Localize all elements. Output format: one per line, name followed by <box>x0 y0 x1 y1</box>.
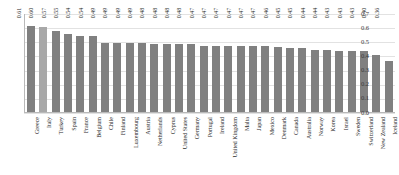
category-label-slot: Malta <box>235 115 247 173</box>
bar-slot: 0.54 <box>87 14 99 112</box>
bar-slot: 0.47 <box>247 14 259 112</box>
y-axis-tick-label: 0.5 <box>349 39 369 46</box>
category-label-slot: New Zealand <box>371 115 383 173</box>
bar[interactable]: 0.49 <box>126 43 134 112</box>
bar-slot: 0.48 <box>185 14 197 112</box>
bar-slot: 0.45 <box>296 14 308 112</box>
bar-slot: 0.47 <box>210 14 222 112</box>
category-label-slot: Australia <box>297 115 309 173</box>
bar[interactable]: 0.48 <box>150 44 158 112</box>
category-label-slot: Netherlands <box>149 115 161 173</box>
bar-chart: 0.610.600.570.550.540.540.490.490.490.49… <box>0 0 399 175</box>
bar[interactable]: 0.47 <box>261 46 269 112</box>
bar[interactable]: 0.49 <box>138 43 146 112</box>
bar[interactable]: 0.54 <box>89 36 97 112</box>
bar[interactable]: 0.47 <box>224 46 232 112</box>
bar[interactable]: 0.44 <box>323 50 331 112</box>
category-label-slot: United Kingdom <box>223 115 235 173</box>
category-label-slot: Germany <box>186 115 198 173</box>
bar[interactable]: 0.36 <box>385 61 393 112</box>
bar[interactable]: 0.47 <box>237 46 245 112</box>
bar-value-label: 0.36 <box>383 8 389 19</box>
bar-slot: 0.44 <box>321 14 333 112</box>
bar-slot: 0.61 <box>25 14 37 112</box>
bar-slot: 0.47 <box>259 14 271 112</box>
bar-slot: 0.55 <box>62 14 74 112</box>
bar[interactable]: 0.47 <box>249 46 257 112</box>
plot-area: 0.610.600.570.550.540.540.490.490.490.49… <box>24 14 395 113</box>
bar-slot: 0.49 <box>99 14 111 112</box>
bar-slot: 0.43 <box>333 14 345 112</box>
bar-slot: 0.40 <box>370 14 382 112</box>
y-axis-tick-label: 0.1 <box>349 95 369 102</box>
bar-slot: 0.46 <box>272 14 284 112</box>
category-label-slot: Portugal <box>198 115 210 173</box>
x-axis-line <box>24 112 395 113</box>
category-label-slot: United States <box>173 115 185 173</box>
bar[interactable]: 0.57 <box>52 31 60 112</box>
category-axis-labels: GreeceItalyTurkeySpainFranceBelgiumChile… <box>25 115 396 173</box>
category-label-slot: Turkey <box>50 115 62 173</box>
category-axis-label: Iceland <box>392 117 398 135</box>
category-label-slot: Italy <box>37 115 49 173</box>
gridline <box>24 113 395 114</box>
bar[interactable]: 0.40 <box>372 55 380 112</box>
bar[interactable]: 0.55 <box>64 34 72 112</box>
category-label-slot: Israel <box>334 115 346 173</box>
bar-slot: 0.60 <box>37 14 49 112</box>
category-label-slot: Japan <box>248 115 260 173</box>
bar-slot: 0.44 <box>309 14 321 112</box>
category-label-slot: Spain <box>62 115 74 173</box>
bar[interactable]: 0.45 <box>298 48 306 112</box>
y-axis-tick-label: 0.4 <box>349 53 369 60</box>
bar-slot: 0.54 <box>74 14 86 112</box>
bar-slot: 0.57 <box>50 14 62 112</box>
bar-slot: 0.49 <box>136 14 148 112</box>
bar[interactable]: 0.46 <box>274 47 282 112</box>
category-label-slot: Sweden <box>347 115 359 173</box>
bar[interactable]: 0.60 <box>39 27 47 112</box>
bar-slot: 0.36 <box>383 14 395 112</box>
category-label-slot: France <box>74 115 86 173</box>
bar[interactable]: 0.43 <box>335 51 343 112</box>
bar-slot: 0.45 <box>284 14 296 112</box>
bar-slot: 0.47 <box>222 14 234 112</box>
bar-series: 0.610.600.570.550.540.540.490.490.490.49… <box>25 14 395 112</box>
category-label-slot: Greece <box>25 115 37 173</box>
y-axis-tick-label: 0.7 <box>349 11 369 18</box>
bar[interactable]: 0.45 <box>286 48 294 112</box>
bar[interactable]: 0.47 <box>212 46 220 112</box>
category-label-slot: Luxembourg <box>124 115 136 173</box>
bar[interactable]: 0.48 <box>187 44 195 112</box>
category-label-slot: Switzerland <box>359 115 371 173</box>
bar[interactable]: 0.54 <box>76 36 84 112</box>
category-label-slot: Chile <box>99 115 111 173</box>
bar[interactable]: 0.48 <box>175 44 183 112</box>
y-axis-tick-label: 0.6 <box>349 25 369 32</box>
category-label-slot: Finland <box>112 115 124 173</box>
bar-slot: 0.49 <box>111 14 123 112</box>
bar[interactable]: 0.49 <box>101 43 109 112</box>
bar[interactable]: 0.61 <box>27 26 35 112</box>
category-label-slot: Norway <box>309 115 321 173</box>
category-label-slot: Iceland <box>384 115 396 173</box>
bar-slot: 0.47 <box>235 14 247 112</box>
bar-slot: 0.48 <box>173 14 185 112</box>
bar[interactable]: 0.47 <box>200 46 208 112</box>
category-label-slot: Belgium <box>87 115 99 173</box>
bar-slot: 0.48 <box>148 14 160 112</box>
bar[interactable]: 0.48 <box>163 44 171 112</box>
category-label-slot: Austria <box>136 115 148 173</box>
y-axis-tick-label: 0.3 <box>349 67 369 74</box>
y-axis-tick-label: 0.2 <box>349 81 369 88</box>
category-label-slot: Canada <box>285 115 297 173</box>
bar[interactable]: 0.49 <box>113 43 121 112</box>
bar-slot: 0.48 <box>161 14 173 112</box>
category-label-slot: Denmark <box>272 115 284 173</box>
category-label-slot: Ireland <box>211 115 223 173</box>
bar-slot: 0.49 <box>124 14 136 112</box>
bar-slot: 0.47 <box>198 14 210 112</box>
category-label-slot: Cyprus <box>161 115 173 173</box>
category-label-slot: Mexico <box>260 115 272 173</box>
bar[interactable]: 0.44 <box>311 50 319 112</box>
